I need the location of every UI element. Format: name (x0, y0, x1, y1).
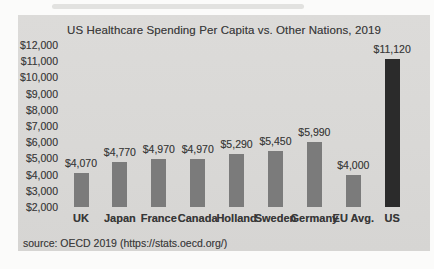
bar-value-label-eu-avg: $4,000 (323, 159, 383, 172)
bar-eu-avg (346, 175, 361, 207)
bar-france (151, 159, 166, 207)
x-category-label-us: US (361, 212, 423, 225)
scanned-chart-page: US Healthcare Spending Per Capita vs. Ot… (0, 0, 434, 269)
y-axis-tick-label: $8,000 (18, 103, 58, 117)
y-axis-tick-label: $10,000 (18, 70, 58, 84)
y-axis-tick-label: $11,000 (18, 54, 58, 68)
bar-us (385, 59, 400, 207)
bar-value-label-uk: $4,070 (51, 157, 111, 170)
y-axis-tick-label: $3,000 (18, 184, 58, 198)
bar-japan (112, 162, 127, 207)
bar-value-label-germany: $5,990 (284, 126, 344, 139)
source-caption: source: OECD 2019 (https://stats.oecd.or… (23, 237, 227, 249)
y-axis-tick-label: $6,000 (18, 135, 58, 149)
y-axis-tick-label: $9,000 (18, 87, 58, 101)
bar-value-label-us: $11,120 (362, 43, 422, 56)
y-axis-tick-label: $7,000 (18, 119, 58, 133)
bar-germany (307, 142, 322, 207)
bar-holland (229, 154, 244, 207)
plot-area: $12,000$11,000$10,000$9,000$8,000$7,000$… (18, 15, 430, 251)
bar-uk (74, 173, 89, 207)
chart-image-area: US Healthcare Spending Per Capita vs. Ot… (18, 15, 430, 251)
scan-artifact-streak (52, 4, 304, 9)
bar-canada (190, 159, 205, 207)
bar-sweden (268, 151, 283, 207)
y-axis-tick-label: $12,000 (18, 38, 58, 52)
